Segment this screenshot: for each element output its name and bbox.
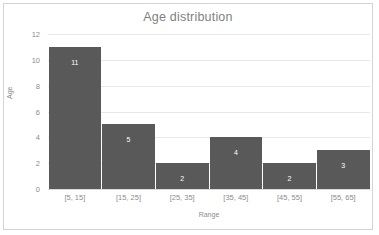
gridline [48, 189, 370, 190]
bar-slot: 2 [155, 34, 209, 189]
y-axis-tick-label: 8 [36, 81, 40, 90]
x-axis-title: Range [48, 211, 370, 218]
y-axis-tick-label: 2 [36, 159, 40, 168]
x-axis-tick-label: [5, 15] [48, 193, 102, 202]
bar[interactable]: 11 [49, 47, 102, 189]
bar-value-label: 3 [317, 162, 370, 169]
x-axis-tick-label: [45, 55] [263, 193, 317, 202]
bar[interactable]: 5 [102, 124, 155, 189]
bar-slot: 11 [48, 34, 102, 189]
y-axis-tick-label: 0 [36, 185, 40, 194]
bar[interactable]: 3 [317, 150, 370, 189]
bar-value-label: 2 [156, 175, 209, 182]
x-axis-tick-label: [55, 65] [316, 193, 370, 202]
bar-series: 1152423 [48, 34, 370, 189]
bar[interactable]: 2 [156, 163, 209, 189]
bar-value-label: 5 [102, 136, 155, 143]
y-axis-tick-label: 10 [32, 55, 40, 64]
bar[interactable]: 2 [263, 163, 316, 189]
bar-slot: 3 [316, 34, 370, 189]
chart-title: Age distribution [4, 10, 372, 24]
bar[interactable]: 4 [210, 137, 263, 189]
bar-slot: 5 [102, 34, 156, 189]
y-axis-tick-label: 6 [36, 107, 40, 116]
y-axis-tick-label: 12 [32, 30, 40, 39]
x-axis-tick-label: [25, 35] [155, 193, 209, 202]
bar-slot: 2 [263, 34, 317, 189]
bar-slot: 4 [209, 34, 263, 189]
y-axis-tick-labels: 024681012 [4, 34, 44, 189]
bar-value-label: 4 [210, 149, 263, 156]
x-axis-tick-label: [35, 45] [209, 193, 263, 202]
bar-value-label: 11 [49, 59, 102, 66]
y-axis-tick-label: 4 [36, 133, 40, 142]
bar-value-label: 2 [263, 175, 316, 182]
chart-container[interactable]: Age distribution Age 024681012 1152423 [… [3, 3, 373, 230]
x-axis-tick-label: [15, 25] [102, 193, 156, 202]
plot-area: 1152423 [48, 34, 370, 189]
x-axis-tick-labels: [5, 15][15, 25][25, 35][35, 45][45, 55][… [48, 193, 370, 202]
